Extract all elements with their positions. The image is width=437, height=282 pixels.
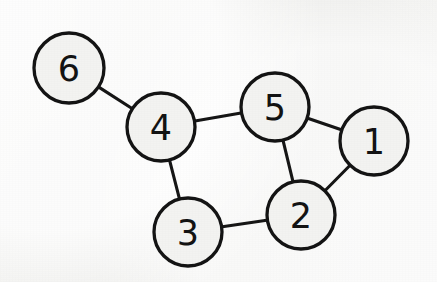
graph-edge-1-2 — [324, 164, 351, 191]
graph-edge-3-2 — [221, 220, 269, 227]
graph-node-label-5: 5 — [264, 88, 286, 128]
graph-node-3[interactable]: 3 — [154, 198, 222, 266]
graph-node-1[interactable]: 1 — [340, 107, 408, 175]
graph-node-5[interactable]: 5 — [241, 73, 309, 141]
graph-node-label-3: 3 — [177, 213, 199, 253]
graph-node-4[interactable]: 4 — [127, 93, 195, 161]
graph-node-label-6: 6 — [58, 49, 80, 89]
diagram-canvas: 123456 — [0, 0, 437, 282]
graph-node-label-4: 4 — [150, 108, 172, 148]
graph-node-6[interactable]: 6 — [34, 33, 104, 103]
graph-node-2[interactable]: 2 — [267, 181, 335, 249]
graph-edge-4-5 — [194, 113, 243, 122]
graph-edge-6-4 — [98, 86, 134, 109]
graph-svg: 123456 — [0, 0, 437, 282]
graph-edge-5-1 — [306, 118, 343, 131]
nodes-layer: 123456 — [34, 33, 408, 266]
graph-edge-4-3 — [169, 159, 180, 200]
graph-node-label-1: 1 — [363, 122, 385, 162]
graph-edge-5-2 — [283, 139, 294, 183]
graph-node-label-2: 2 — [290, 196, 312, 236]
